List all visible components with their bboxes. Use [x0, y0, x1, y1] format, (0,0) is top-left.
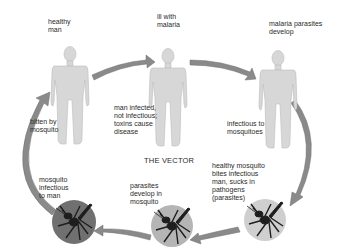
arrow-mosquito-to-mosquito-1	[190, 227, 240, 244]
developing-man-figure	[259, 51, 297, 149]
caption-man-infected: man infected, not infectious; toxins cau…	[114, 104, 157, 136]
label-parasites-develop-in-mosquito: parasites develop in mosquito	[130, 182, 162, 206]
label-parasites-develop: malaria parasites develop	[269, 20, 322, 36]
label-healthy-man: healthy man	[48, 18, 71, 34]
caption-bitten-by-mosquito: bitten by mosquito	[30, 118, 58, 134]
arrow-mosquito-to-mosquito-2	[94, 225, 151, 240]
label-ill-with-malaria: ill with malaria	[157, 13, 180, 29]
label-healthy-mosquito: healthy mosquito bites infectious man, s…	[212, 162, 265, 202]
title-the-vector: THE VECTOR	[144, 156, 194, 165]
caption-infectious-to-mosquitoes: infectious to mosquitoes	[227, 120, 264, 136]
arrow-healthy-to-ill	[92, 55, 155, 80]
arrow-developing-to-mosquito	[290, 100, 311, 206]
label-mosquito-infectious: mosquito infectious to man	[39, 176, 69, 200]
arrow-ill-to-developing	[190, 60, 256, 80]
